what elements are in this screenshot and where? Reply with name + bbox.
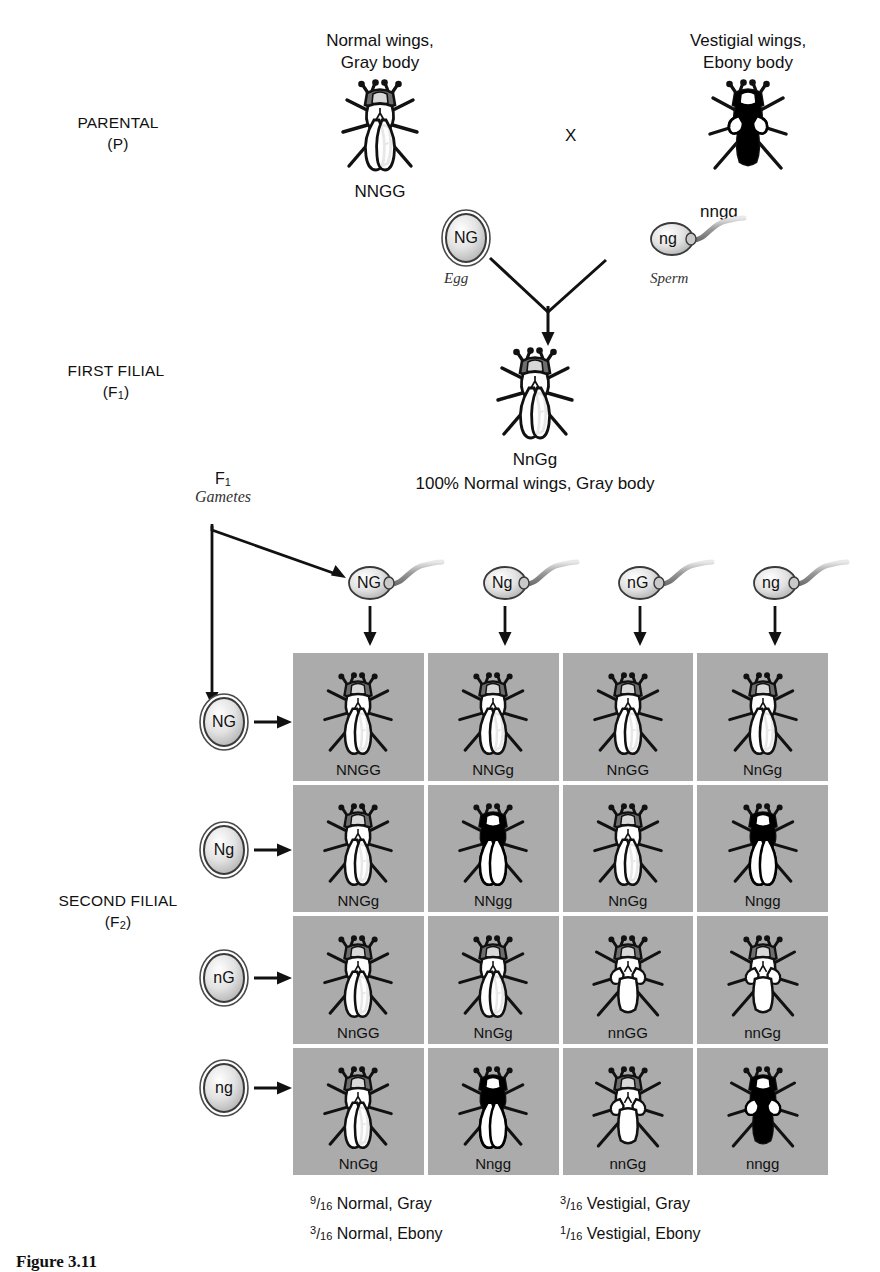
punnett-cell-genotype: Nngg [745,892,781,909]
ratio-text: Normal, Ebony [337,1225,443,1242]
f1-fly-icon [495,348,575,444]
punnett-cell-genotype: NNGg [338,892,380,909]
figure-caption: Figure 3.11 [16,1252,97,1272]
punnett-cell-fly-icon [592,1066,664,1154]
punnett-cell[interactable]: NnGg [563,785,694,913]
ratio-item-vestigial-ebony: 1/16 Vestigial, Ebony [560,1218,701,1248]
father-phenotype-line1: Vestigial wings, [648,30,848,52]
punnett-column-arrows [290,604,835,654]
parental-generation-label: PARENTAL (P) [38,112,198,154]
punnett-cell-fly-icon [322,672,394,760]
f2-sperm-gamete-3[interactable]: nG [618,560,714,606]
f1-label-line2: (F1) [26,381,206,406]
f2-label-line1: SECOND FILIAL [18,890,218,911]
punnett-cell[interactable]: NnGg [293,1048,424,1176]
punnett-cell-genotype: nnGG [608,1024,648,1041]
punnett-cell-fly-icon [322,935,394,1023]
punnett-cell-fly-icon [457,672,529,760]
punnett-cell-genotype: nngg [746,1155,779,1172]
punnett-cell-genotype: NnGg [743,761,782,778]
ratio-denominator: 16 [320,1200,332,1212]
punnett-cell-genotype: NNGG [336,761,381,778]
punnett-cell-fly-icon [322,803,394,891]
f2-label-line2: (F2) [18,911,218,936]
f2-sperm-gamete-1[interactable]: NG [348,560,444,606]
f2-egg-gamete-3[interactable]: nG [198,948,250,1008]
ratio-item-vestigial-gray: 3/16 Vestigial, Gray [560,1188,701,1218]
punnett-cell[interactable]: NNGg [428,653,559,781]
punnett-cell[interactable]: NnGg [428,916,559,1044]
punnett-cell-fly-icon [322,1066,394,1154]
f1-label-line1: FIRST FILIAL [26,360,206,381]
punnett-cell-genotype: nnGg [610,1155,647,1172]
punnett-cell-fly-icon [727,1066,799,1154]
f1-generation-label: FIRST FILIAL (F1) [26,360,206,406]
ratio-text: Normal, Gray [337,1195,432,1212]
punnett-cell-fly-icon [592,935,664,1023]
punnett-cell[interactable]: nnGG [563,916,694,1044]
punnett-cell[interactable]: nnGg [697,916,828,1044]
f1-gametes-label-italic: Gametes [178,488,268,506]
punnett-cell-genotype: NNgg [474,892,512,909]
ratio-denominator: 16 [570,1200,582,1212]
f1-gametes-label-main: F1 [178,470,268,488]
ratio-text: Vestigial, Gray [587,1195,690,1212]
punnett-cell[interactable]: Nngg [697,785,828,913]
punnett-square-grid: NNGGNNGgNnGGNnGgNNGgNNggNnGgNnggNnGGNnGg… [293,653,828,1175]
punnett-cell[interactable]: NNgg [428,785,559,913]
punnett-cell-genotype: NnGg [474,1024,513,1041]
f1-gametes-label: F1 Gametes [178,470,268,506]
mother-phenotype: Normal wings, Gray body [285,30,475,74]
f2-sperm-gamete-2[interactable]: Ng [483,560,579,606]
ratio-denominator: 16 [570,1230,582,1242]
punnett-cell-genotype: NnGG [607,761,650,778]
f2-egg-gamete-4[interactable]: ng [198,1058,250,1118]
punnett-cell-fly-icon [727,935,799,1023]
f2-sperm-gamete-4[interactable]: ng [753,560,849,606]
ratio-group-left: 9/16 Normal, Gray 3/16 Normal, Ebony [310,1188,443,1248]
mother-genotype: NNGG [285,182,475,202]
punnett-cell-fly-icon [457,935,529,1023]
punnett-cell-genotype: NnGg [339,1155,378,1172]
ratio-text: Vestigial, Ebony [587,1225,701,1242]
punnett-cell[interactable]: NnGG [293,916,424,1044]
punnett-cell-genotype: NnGG [337,1024,380,1041]
f2-egg-gamete-1[interactable]: NG [198,692,250,752]
mother-fly-icon [340,80,420,176]
f1-genotype: NnGg [455,450,615,470]
f2-generation-label: SECOND FILIAL (F2) [18,890,218,936]
punnett-cell-genotype: nnGg [744,1024,781,1041]
father-fly-icon [708,80,788,176]
fertilization-arrow [440,240,700,350]
punnett-cell-genotype: NnGg [608,892,647,909]
f2-egg-gamete-2[interactable]: Ng [198,820,250,880]
punnett-cell[interactable]: Nngg [428,1048,559,1176]
ratio-denominator: 16 [320,1230,332,1242]
cross-symbol: X [565,126,576,146]
punnett-cell[interactable]: NnGg [697,653,828,781]
mother-phenotype-line2: Gray body [285,52,475,74]
punnett-cell-genotype: NNGg [472,761,514,778]
ratio-item-normal-ebony: 3/16 Normal, Ebony [310,1218,443,1248]
punnett-cell[interactable]: NNGG [293,653,424,781]
ratio-group-right: 3/16 Vestigial, Gray 1/16 Vestigial, Ebo… [560,1188,701,1248]
father-phenotype: Vestigial wings, Ebony body [648,30,848,74]
parental-label-line2: (P) [38,133,198,154]
punnett-cell[interactable]: nnGg [563,1048,694,1176]
parental-label-line1: PARENTAL [38,112,198,133]
punnett-cell[interactable]: NNGg [293,785,424,913]
punnett-cell-fly-icon [727,672,799,760]
punnett-cell-genotype: Nngg [475,1155,511,1172]
punnett-cell-fly-icon [592,803,664,891]
punnett-cell-fly-icon [727,803,799,891]
father-phenotype-line2: Ebony body [648,52,848,74]
mother-phenotype-line1: Normal wings, [285,30,475,52]
punnett-cell-fly-icon [457,1066,529,1154]
f1-phenotype: 100% Normal wings, Gray body [365,473,705,495]
punnett-cell[interactable]: nngg [697,1048,828,1176]
punnett-cell[interactable]: NnGG [563,653,694,781]
punnett-cell-fly-icon [457,803,529,891]
ratio-item-normal-gray: 9/16 Normal, Gray [310,1188,443,1218]
punnett-cell-fly-icon [592,672,664,760]
